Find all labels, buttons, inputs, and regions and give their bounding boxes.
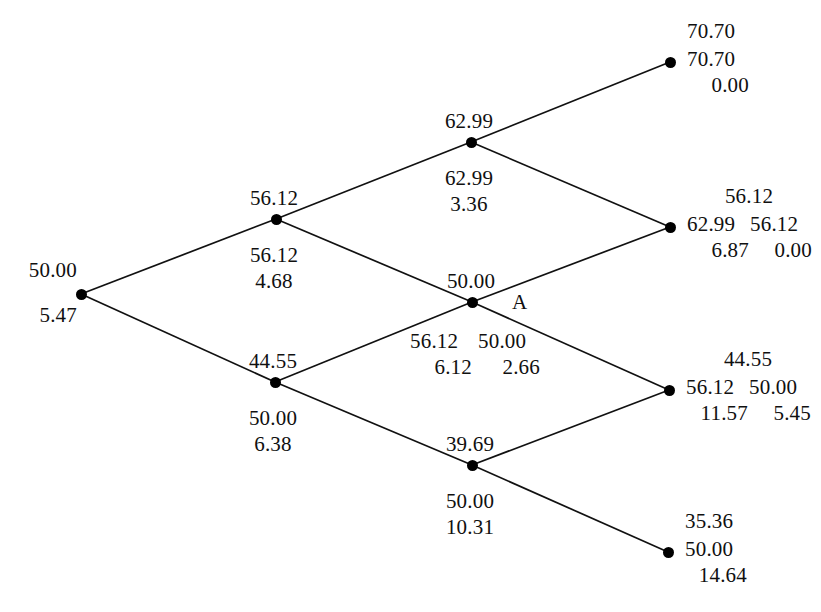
edge-uu-down (471, 142, 670, 227)
step1-up-node-value-2: 4.68 (243, 271, 305, 292)
step2-down-node-stock: 39.69 (439, 434, 501, 455)
root-node-dot (76, 289, 87, 300)
step1-down-node-value-1: 50.00 (242, 408, 304, 429)
step2-middle-node-annotation-label: A (512, 292, 527, 313)
step2-down-node-dot (467, 460, 478, 471)
step1-down-node-value-2: 6.38 (242, 434, 304, 455)
terminal-node-4-dot (663, 547, 674, 558)
terminal-node-3-dot (664, 385, 675, 396)
step2-middle-node-value-col1-row1: 56.12 (410, 331, 472, 352)
step2-up-node-dot (466, 137, 477, 148)
step2-middle-node-value-col2-row2: 2.66 (478, 357, 540, 378)
step2-middle-node-stock: 50.00 (440, 271, 502, 292)
terminal-node-4-value-1: 50.00 (685, 539, 747, 560)
terminal-node-2-stock: 56.12 (718, 186, 780, 207)
step1-down-node-dot (270, 377, 281, 388)
step2-up-node-stock: 62.99 (438, 111, 500, 132)
terminal-node-3-value-col2-row1: 50.00 (749, 377, 811, 398)
terminal-node-4-value-2: 14.64 (685, 565, 747, 586)
step2-up-node-value-1: 62.99 (438, 168, 500, 189)
terminal-node-2-dot (665, 222, 676, 233)
terminal-node-3-value-col1-row2: 11.57 (686, 403, 748, 424)
terminal-node-1-stock: 70.70 (687, 21, 749, 42)
root-node-stock: 50.00 (15, 260, 77, 281)
terminal-node-1-value-1: 70.70 (687, 49, 749, 70)
step2-down-node-value-1: 50.00 (439, 491, 501, 512)
edge-dd-down (472, 465, 668, 552)
terminal-node-2-value-col2-row2: 0.00 (750, 240, 812, 261)
terminal-node-2-value-col2-row1: 56.12 (750, 214, 812, 235)
terminal-node-2-value-col1-row1: 62.99 (687, 214, 749, 235)
step2-up-node-value-2: 3.36 (438, 194, 500, 215)
terminal-node-2-value-col1-row2: 6.87 (687, 240, 749, 261)
step1-up-node-dot (271, 214, 282, 225)
terminal-node-3-value-col1-row1: 56.12 (686, 377, 748, 398)
terminal-node-4-stock: 35.36 (685, 511, 747, 532)
edge-uu-up (471, 62, 670, 142)
step1-up-node-stock: 56.12 (243, 188, 305, 209)
step2-middle-node-value-col1-row2: 6.12 (410, 357, 472, 378)
step2-middle-node-value-col2-row1: 50.00 (478, 331, 540, 352)
step1-up-node-value-1: 56.12 (243, 245, 305, 266)
edge-dd-up (472, 390, 669, 465)
binomial-tree-figure: 50.005.4756.1256.124.6844.5550.006.3862.… (0, 0, 821, 612)
step1-down-node-stock: 44.55 (242, 351, 304, 372)
terminal-node-3-value-col2-row2: 5.45 (749, 403, 811, 424)
terminal-node-3-stock: 44.55 (717, 349, 779, 370)
step2-down-node-value-2: 10.31 (439, 517, 501, 538)
terminal-node-1-value-2: 0.00 (687, 75, 749, 96)
step2-middle-node-dot (467, 297, 478, 308)
root-node-value-1: 5.47 (15, 305, 77, 326)
terminal-node-1-dot (665, 57, 676, 68)
